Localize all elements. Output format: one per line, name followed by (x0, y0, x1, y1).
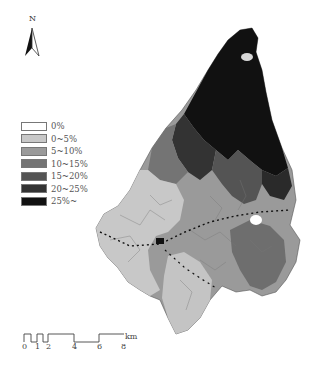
legend-label: 25%~ (51, 196, 77, 206)
legend-swatch (21, 159, 47, 168)
legend-item: 0~5% (21, 133, 88, 146)
legend-label: 5~10% (51, 146, 82, 156)
legend-swatch (21, 134, 47, 143)
legend-label: 0% (51, 121, 65, 131)
zone-0-patch-2 (250, 215, 262, 225)
urban-patch (156, 238, 164, 244)
legend-item: 20~25% (21, 183, 88, 196)
legend-swatch (21, 184, 47, 193)
legend-swatch (21, 172, 47, 181)
legend-item: 15~20% (21, 170, 88, 183)
zone-0 (0, 0, 246, 12)
legend: 0% 0~5% 5~10% 10~15% 15~20% 20~25% 25%~ (21, 120, 88, 208)
scale-tick-1: 1 (35, 342, 40, 351)
legend-label: 10~15% (51, 159, 88, 169)
scale-tick-2: 2 (46, 342, 51, 351)
scale-tick-6: 6 (97, 342, 102, 351)
legend-item: 10~15% (21, 158, 88, 171)
north-label: N (29, 14, 36, 23)
legend-swatch (21, 197, 47, 206)
north-arrow-icon (22, 26, 44, 72)
legend-item: 0% (21, 120, 88, 133)
scale-tick-8: 8 (121, 342, 126, 351)
legend-item: 25%~ (21, 195, 88, 208)
legend-item: 5~10% (21, 145, 88, 158)
legend-swatch (21, 147, 47, 156)
scale-unit: km (125, 332, 137, 341)
legend-label: 15~20% (51, 171, 88, 181)
legend-label: 20~25% (51, 184, 88, 194)
scale-tick-0: 0 (22, 342, 27, 351)
legend-label: 0~5% (51, 134, 77, 144)
zone-0-patch (241, 53, 253, 61)
scale-tick-4: 4 (72, 342, 77, 351)
legend-swatch (21, 122, 47, 131)
